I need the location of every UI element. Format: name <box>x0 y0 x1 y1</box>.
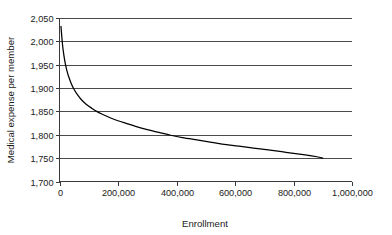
x-axis-tick-labels: 0200,000400,000600,000800,0001,000,000 <box>58 188 373 198</box>
x-tick-label: 1,000,000 <box>332 188 373 198</box>
y-tick-label: 1,800 <box>31 131 54 141</box>
axis-lines <box>59 18 352 182</box>
x-tick-label: 0 <box>58 188 63 198</box>
x-tick-label: 200,000 <box>102 188 135 198</box>
x-tick-label: 400,000 <box>161 188 194 198</box>
y-tick-label: 1,850 <box>31 107 54 117</box>
x-axis-title: Enrollment <box>182 218 228 229</box>
y-tick-label: 1,700 <box>31 178 54 188</box>
y-axis-title: Medical expense per member <box>5 36 16 163</box>
y-tick-label: 1,900 <box>31 84 54 94</box>
y-tick-label: 1,750 <box>31 154 54 164</box>
chart-plot: 0200,000400,000600,000800,0001,000,000 1… <box>0 0 392 235</box>
data-series-line <box>61 26 323 158</box>
chart-container: 0200,000400,000600,000800,0001,000,000 1… <box>0 0 392 235</box>
y-tick-label: 2,050 <box>31 14 54 24</box>
y-axis-tick-labels: 1,7001,7501,8001,8501,9001,9502,0002,050 <box>31 14 54 188</box>
x-tick-label: 600,000 <box>219 188 252 198</box>
gridlines <box>60 19 353 159</box>
y-tick-label: 1,950 <box>31 61 54 71</box>
y-tick-label: 2,000 <box>31 37 54 47</box>
x-tick-label: 800,000 <box>278 188 311 198</box>
x-axis-ticks <box>61 182 353 186</box>
